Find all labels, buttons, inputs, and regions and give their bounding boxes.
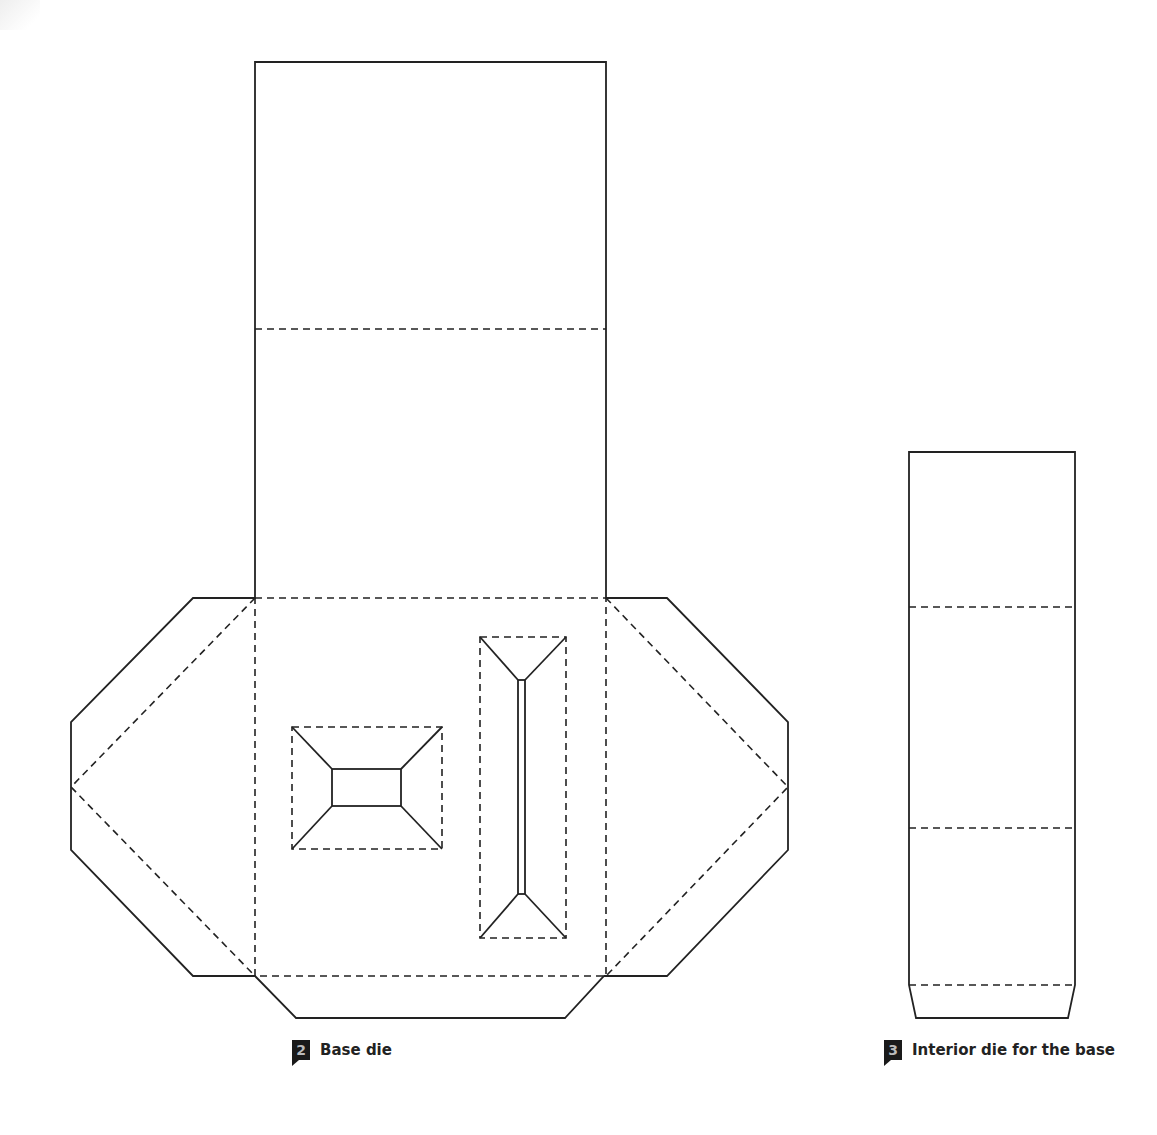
interior-die-outline <box>909 452 1075 1018</box>
caption-text: Base die <box>320 1041 392 1059</box>
caption-interior-die: 3 Interior die for the base <box>884 1040 1115 1060</box>
die-line-diagram <box>0 0 1157 1135</box>
base-die <box>71 62 788 1018</box>
base-die-outline <box>71 62 788 1018</box>
caption-base-die: 2 Base die <box>292 1040 392 1060</box>
right-flap-diagonal <box>606 598 788 976</box>
base-panel-fold <box>255 598 606 976</box>
interior-die <box>909 452 1075 1018</box>
square-window <box>292 727 442 849</box>
figure-number-badge: 3 <box>884 1040 902 1060</box>
caption-text: Interior die for the base <box>912 1041 1115 1059</box>
figure-number-badge: 2 <box>292 1040 310 1060</box>
slot-window <box>480 637 566 938</box>
left-flap-diagonal <box>71 598 255 976</box>
